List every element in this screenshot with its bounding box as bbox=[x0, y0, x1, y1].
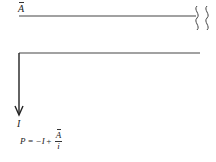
top-line-label: A bbox=[18, 4, 24, 14]
formula-fraction: A i bbox=[55, 131, 63, 152]
label-a: A bbox=[18, 4, 24, 14]
formula-lhs: P bbox=[20, 136, 26, 146]
fraction-denominator: i bbox=[57, 142, 60, 152]
formula-term1: −I bbox=[36, 136, 45, 146]
formula-plus: + bbox=[46, 136, 52, 146]
formula-eq: = bbox=[28, 136, 34, 146]
formula: P = −I + A i bbox=[20, 131, 62, 152]
arrow-label: I bbox=[17, 119, 20, 129]
break-symbol-right bbox=[206, 6, 208, 30]
fraction-numerator: A bbox=[55, 131, 63, 142]
numerator-a: A bbox=[56, 131, 62, 141]
break-symbol-left bbox=[196, 6, 198, 30]
